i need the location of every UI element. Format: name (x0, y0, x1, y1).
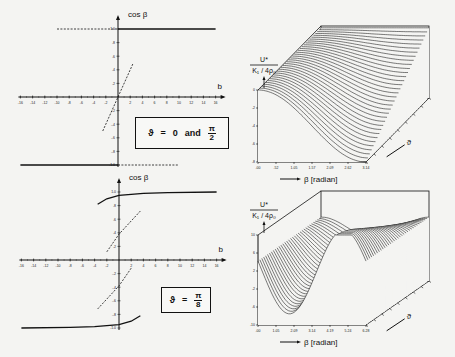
theta-symbol: ϑ (170, 295, 175, 305)
series-stable-lower (21, 316, 140, 328)
svg-text:14: 14 (201, 101, 205, 105)
fraction-pi-over-8: π 8 (194, 292, 202, 309)
svg-text:3.14: 3.14 (309, 329, 316, 333)
svg-text:2: 2 (130, 264, 132, 268)
svg-text:-.6: -.6 (111, 136, 115, 140)
svg-text:2: 2 (253, 269, 255, 273)
plot-bottom-right: .001.052.093.144.195.246.281062-2-6-10U*… (250, 191, 431, 347)
svg-text:-.6: -.6 (112, 299, 116, 303)
svg-text:6: 6 (154, 101, 156, 105)
svg-text:-4: -4 (252, 124, 255, 128)
svg-text:10: 10 (178, 264, 182, 268)
svg-text:U*: U* (260, 56, 268, 63)
svg-text:2: 2 (129, 101, 131, 105)
svg-text:1.05: 1.05 (291, 166, 298, 170)
svg-text:-16: -16 (18, 101, 23, 105)
svg-text:14: 14 (202, 264, 206, 268)
svg-text:-2: -2 (252, 287, 255, 291)
svg-text:cos β: cos β (129, 173, 149, 182)
svg-text:.8: .8 (113, 204, 116, 208)
svg-text:b: b (218, 82, 223, 91)
svg-text:-2: -2 (104, 101, 107, 105)
svg-text:-10: -10 (54, 101, 59, 105)
svg-text:ϑ: ϑ (407, 138, 412, 147)
theta-symbol: ϑ (148, 128, 153, 138)
svg-text:ϑ: ϑ (407, 312, 412, 321)
legend-bottom-left: ϑ = π 8 (161, 287, 211, 313)
svg-text:-6: -6 (80, 101, 83, 105)
svg-text:.4: .4 (112, 68, 115, 72)
svg-text:-14: -14 (31, 264, 36, 268)
svg-text:-6: -6 (252, 142, 255, 146)
svg-text:0: 0 (253, 88, 255, 92)
svg-text:-8: -8 (252, 160, 255, 164)
svg-text:1.05: 1.05 (273, 329, 280, 333)
svg-text:6: 6 (155, 264, 157, 268)
svg-text:12: 12 (190, 264, 194, 268)
svg-text:12: 12 (189, 101, 193, 105)
svg-text:4: 4 (141, 101, 143, 105)
svg-text:-8: -8 (69, 264, 72, 268)
svg-text:β [radian]: β [radian] (304, 338, 338, 347)
svg-text:-12: -12 (42, 101, 47, 105)
svg-text:b: b (219, 245, 224, 254)
svg-text:1.0: 1.0 (111, 190, 116, 194)
svg-text:-12: -12 (43, 264, 48, 268)
svg-text:-14: -14 (30, 101, 35, 105)
svg-text:-16: -16 (19, 264, 24, 268)
svg-text:10: 10 (177, 101, 181, 105)
svg-text:.2: .2 (113, 245, 116, 249)
svg-text:-.8: -.8 (111, 150, 115, 154)
svg-text:-10: -10 (55, 264, 60, 268)
svg-text:3.14: 3.14 (363, 166, 370, 170)
svg-text:2.09: 2.09 (327, 166, 334, 170)
svg-text:-1.0: -1.0 (110, 326, 116, 330)
svg-text:U*: U* (260, 201, 268, 208)
svg-text:-.4: -.4 (111, 123, 115, 127)
svg-text:-.2: -.2 (112, 272, 116, 276)
svg-text:6.28: 6.28 (363, 329, 370, 333)
svg-text:2.09: 2.09 (291, 329, 298, 333)
svg-text:8: 8 (166, 101, 168, 105)
svg-text:-6: -6 (252, 305, 255, 309)
svg-text:8: 8 (167, 264, 169, 268)
svg-text:.00: .00 (256, 329, 261, 333)
svg-text:-.8: -.8 (112, 313, 116, 317)
plot-top-right: .00.521.051.572.092.623.140-2-4-6-8U*K₁ … (250, 26, 431, 184)
svg-text:-8: -8 (68, 101, 71, 105)
svg-text:16: 16 (215, 264, 219, 268)
svg-text:-4: -4 (93, 264, 96, 268)
svg-text:.00: .00 (256, 166, 261, 170)
svg-text:10: 10 (251, 233, 255, 237)
svg-text:-10: -10 (250, 323, 255, 327)
svg-text:.6: .6 (112, 55, 115, 59)
svg-text:-4: -4 (92, 101, 95, 105)
svg-text:K₁ / 4ρ₀: K₁ / 4ρ₀ (252, 212, 276, 220)
svg-text:4.19: 4.19 (327, 329, 334, 333)
svg-text:-.4: -.4 (112, 286, 116, 290)
svg-text:.8: .8 (112, 41, 115, 45)
svg-text:16: 16 (214, 101, 218, 105)
svg-text:.6: .6 (113, 218, 116, 222)
figure-canvas: 1.0.8.6.4.2-.2-.4-.6-.8-1.0cos βb-16-14-… (0, 0, 455, 357)
svg-text:6: 6 (253, 251, 255, 255)
svg-text:5.24: 5.24 (345, 329, 352, 333)
series-unstable-upper (107, 211, 141, 252)
svg-text:β [radian]: β [radian] (304, 175, 338, 184)
svg-text:K₁ / 4ρ₀: K₁ / 4ρ₀ (252, 67, 276, 75)
svg-text:-2: -2 (105, 264, 108, 268)
svg-text:cos β: cos β (128, 10, 148, 19)
svg-text:-2: -2 (252, 106, 255, 110)
svg-text:1.57: 1.57 (309, 166, 316, 170)
svg-text:.2: .2 (112, 82, 115, 86)
svg-text:.52: .52 (274, 166, 279, 170)
svg-text:4: 4 (142, 264, 144, 268)
svg-text:2.62: 2.62 (345, 166, 352, 170)
svg-text:.4: .4 (113, 231, 116, 235)
legend-top-left: ϑ = 0 and π 2 (135, 117, 229, 149)
fraction-pi-over-2: π 2 (208, 125, 216, 142)
svg-text:-6: -6 (81, 264, 84, 268)
